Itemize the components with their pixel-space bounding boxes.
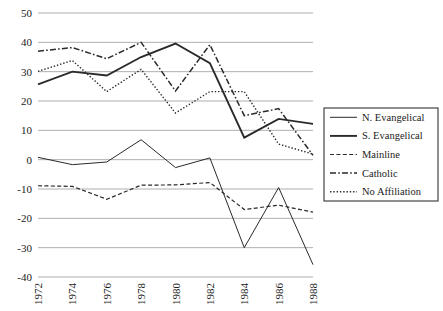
y-axis-tick-label: 20 [21,95,33,107]
y-axis-tick-label: -40 [17,271,32,283]
y-axis-tick-labels: 50403020100-10-20-30-40 [17,7,32,283]
y-axis-tick-label: 0 [27,154,33,166]
legend-label-2: S. Evangelical [362,130,423,141]
chart-legend: N. EvangelicalS. EvangelicalMainlineCath… [324,108,438,201]
x-axis-tick-label: 1980 [170,283,182,306]
x-axis-tick-label: 1986 [273,283,285,306]
x-axis-tick-label: 1988 [307,283,319,306]
x-axis-tick-label: 1972 [32,283,44,305]
y-axis-tick-label: -20 [17,212,32,224]
x-axis-tick-labels: 197219741976197819801982198419861988 [32,283,319,306]
x-axis-tick-label: 1984 [238,283,250,306]
series-line-no-affiliation [38,61,313,155]
y-axis-tick-label: -30 [17,242,32,254]
x-axis-tick-label: 1982 [204,283,216,305]
x-axis-tick-label: 1976 [101,283,113,306]
legend-label-3: Mainline [362,149,400,160]
series-line-n-evangelical [38,140,313,265]
legend-label-4: Catholic [362,168,398,179]
y-axis-tick-label: 10 [21,124,33,136]
line-chart: 50403020100-10-20-30-40 1972197419761978… [0,0,443,311]
series-line-mainline [38,183,313,213]
y-axis-tick-label: -10 [17,183,32,195]
y-axis-tick-label: 40 [21,36,33,48]
y-axis-tick-label: 30 [21,66,33,78]
legend-label-1: N. Evangelical [362,112,424,123]
gridlines-group [38,13,313,277]
legend-label-5: No Affiliation [362,186,422,197]
x-axis-tick-label: 1974 [66,283,78,306]
series-line-catholic [38,42,313,155]
x-axis-tick-label: 1978 [135,283,147,306]
chart-plot-area: 50403020100-10-20-30-40 1972197419761978… [0,0,443,311]
y-axis-tick-label: 50 [21,7,33,19]
series-lines-group [38,42,313,264]
